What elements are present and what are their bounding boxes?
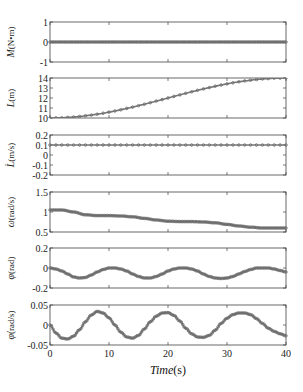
data-series bbox=[49, 77, 288, 120]
y-tick-label: 0.2 bbox=[36, 130, 49, 141]
y-tick-label: 0.2 bbox=[36, 243, 49, 254]
y-axis-label: ω(rad/s) bbox=[5, 197, 16, 228]
data-series bbox=[49, 144, 288, 147]
y-tick-label: 1 bbox=[43, 17, 48, 28]
y-tick-label: 1 bbox=[43, 207, 48, 218]
data-series bbox=[49, 41, 288, 44]
x-tick-label: 40 bbox=[281, 348, 291, 359]
data-series bbox=[49, 267, 288, 280]
y-tick-label: -0.05 bbox=[27, 340, 48, 351]
x-axis-title: Time(s) bbox=[150, 363, 186, 377]
y-tick-label: 12 bbox=[38, 93, 48, 104]
y-tick-label: 0 bbox=[43, 320, 48, 331]
y-tick-label: 0.5 bbox=[36, 227, 49, 238]
subplot-Ldot: -0.2-0.100.10.2L̇(m/s) bbox=[5, 130, 287, 181]
y-tick-label: 0 bbox=[43, 263, 48, 274]
x-tick-label: 10 bbox=[104, 348, 114, 359]
y-tick-label: -1 bbox=[40, 57, 48, 68]
y-axis-label: L(m) bbox=[5, 89, 16, 109]
x-tick-label: 20 bbox=[163, 348, 173, 359]
y-tick-label: 14 bbox=[38, 73, 48, 84]
subplot-omega: 0.511.5ω(rad/s) bbox=[5, 187, 287, 238]
y-tick-label: 10 bbox=[38, 113, 48, 124]
x-axis: 010203040Time(s) bbox=[48, 348, 292, 377]
y-tick-label: 0 bbox=[43, 37, 48, 48]
subplot-phidot: -0.0500.05φ̇(rad/s) bbox=[5, 300, 287, 351]
subplot-phi: -0.200.2φ(rad) bbox=[5, 243, 287, 294]
y-tick-label: 0.1 bbox=[36, 140, 49, 151]
stacked-time-series-figure: -101M(N•m)1011121314L(m)-0.2-0.100.10.2L… bbox=[0, 0, 303, 392]
subplot-L: 1011121314L(m) bbox=[5, 73, 287, 124]
y-axis-label: M(N•m) bbox=[5, 27, 16, 59]
x-tick-label: 0 bbox=[48, 348, 53, 359]
data-series bbox=[49, 209, 288, 230]
y-tick-label: 11 bbox=[38, 103, 48, 114]
y-tick-label: 0 bbox=[43, 150, 48, 161]
y-axis-label: φ̇(rad/s) bbox=[5, 310, 16, 339]
y-tick-label: 0.05 bbox=[31, 300, 49, 311]
x-tick-label: 30 bbox=[222, 348, 232, 359]
subplot-M: -101M(N•m) bbox=[5, 17, 287, 68]
y-tick-label: 1.5 bbox=[36, 187, 49, 198]
y-axis-label: φ(rad) bbox=[5, 256, 16, 279]
y-tick-label: -0.2 bbox=[32, 170, 48, 181]
data-series bbox=[49, 310, 288, 340]
y-axis-label: L̇(m/s) bbox=[5, 143, 16, 169]
axes-frame bbox=[50, 135, 286, 175]
y-tick-label: -0.1 bbox=[32, 160, 48, 171]
y-tick-label: -0.2 bbox=[32, 283, 48, 294]
y-tick-label: 13 bbox=[38, 83, 48, 94]
